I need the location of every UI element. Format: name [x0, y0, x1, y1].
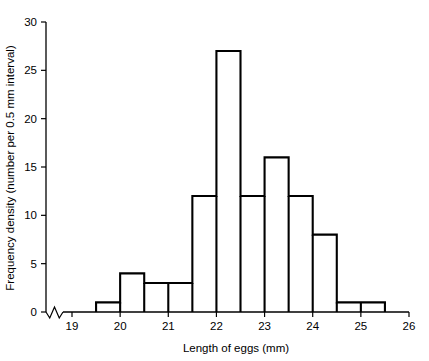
y-axis-tick-label: 30 [24, 16, 37, 28]
x-axis-tick-label: 26 [403, 320, 416, 332]
y-axis-tick-label: 20 [24, 113, 37, 125]
y-axis-tick-label: 25 [24, 64, 37, 76]
y-axis-tick-label: 5 [31, 258, 37, 270]
x-axis-tick-label: 20 [114, 320, 127, 332]
histogram-chart: 051015202530 1920212223242526 Length of … [0, 0, 429, 361]
x-axis-title: Length of eggs (mm) [183, 342, 289, 354]
x-axis-tick-label: 24 [306, 320, 319, 332]
chart-canvas: 051015202530 1920212223242526 Length of … [0, 0, 429, 361]
y-axis-tick-label: 10 [24, 209, 37, 221]
x-axis-tick-label: 21 [162, 320, 175, 332]
x-axis-tick-label: 23 [258, 320, 271, 332]
y-axis-tick-label: 0 [31, 306, 37, 318]
x-axis-tick-label: 25 [354, 320, 367, 332]
y-axis-tick-label: 15 [24, 161, 37, 173]
chart-background [0, 0, 429, 361]
x-axis-tick-label: 22 [210, 320, 223, 332]
x-axis-tick-label: 19 [66, 320, 79, 332]
y-axis-title: Frequency density (number per 0.5 mm int… [4, 45, 16, 291]
